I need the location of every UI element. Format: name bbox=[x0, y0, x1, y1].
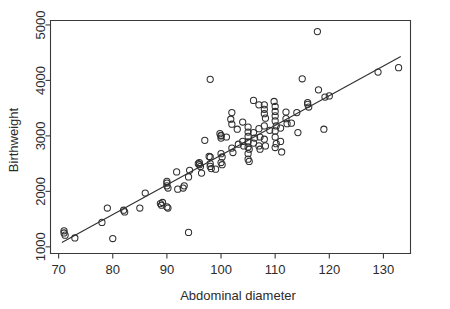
y-tick-label: 1000 bbox=[33, 232, 48, 261]
data-point bbox=[295, 129, 301, 135]
data-point bbox=[229, 109, 235, 115]
data-point bbox=[202, 137, 208, 143]
data-point bbox=[240, 119, 246, 125]
data-point bbox=[207, 76, 213, 82]
data-point bbox=[314, 28, 320, 34]
data-point bbox=[299, 76, 305, 82]
data-point bbox=[104, 205, 110, 211]
data-point bbox=[395, 65, 401, 71]
y-axis-tick-labels: 10002000300040005000 bbox=[33, 10, 48, 261]
data-point bbox=[213, 166, 219, 172]
y-axis-title: Birthweight bbox=[6, 107, 21, 172]
data-point bbox=[62, 232, 68, 238]
y-tick-label: 4000 bbox=[33, 66, 48, 95]
x-tick-label: 120 bbox=[318, 262, 340, 277]
data-point bbox=[262, 143, 268, 149]
data-points bbox=[61, 28, 402, 241]
data-point bbox=[279, 149, 285, 155]
data-point bbox=[137, 205, 143, 211]
x-axis-tick-labels: 708090100110120130 bbox=[51, 262, 394, 277]
scatter-plot-figure: 708090100110120130 10002000300040005000 … bbox=[0, 0, 450, 309]
data-point bbox=[185, 229, 191, 235]
data-point bbox=[261, 111, 267, 117]
data-point bbox=[185, 174, 191, 180]
data-point bbox=[272, 144, 278, 150]
y-tick-label: 5000 bbox=[33, 10, 48, 39]
x-tick-label: 100 bbox=[210, 262, 232, 277]
plot-canvas: 708090100110120130 10002000300040005000 … bbox=[0, 0, 450, 309]
x-axis-ticks bbox=[59, 254, 384, 259]
data-point bbox=[246, 146, 252, 152]
data-point bbox=[219, 162, 225, 168]
data-point bbox=[246, 158, 252, 164]
data-point bbox=[181, 183, 187, 189]
data-point bbox=[283, 109, 289, 115]
y-tick-label: 3000 bbox=[33, 121, 48, 150]
data-point bbox=[262, 115, 268, 121]
data-point bbox=[315, 87, 321, 93]
x-tick-label: 130 bbox=[373, 262, 395, 277]
y-tick-label: 2000 bbox=[33, 177, 48, 206]
data-point bbox=[174, 169, 180, 175]
data-point bbox=[288, 120, 294, 126]
data-point bbox=[234, 126, 240, 132]
data-point bbox=[110, 235, 116, 241]
regression-line bbox=[62, 57, 401, 243]
x-tick-label: 70 bbox=[51, 262, 65, 277]
x-tick-label: 90 bbox=[160, 262, 174, 277]
x-tick-label: 110 bbox=[265, 262, 286, 277]
data-point bbox=[250, 97, 256, 103]
data-point bbox=[198, 170, 204, 176]
data-point bbox=[261, 123, 267, 129]
data-point bbox=[321, 126, 327, 132]
x-tick-label: 80 bbox=[106, 262, 120, 277]
fit-line bbox=[62, 57, 401, 243]
data-point bbox=[272, 134, 278, 140]
x-axis-title: Abdominal diameter bbox=[180, 288, 296, 303]
